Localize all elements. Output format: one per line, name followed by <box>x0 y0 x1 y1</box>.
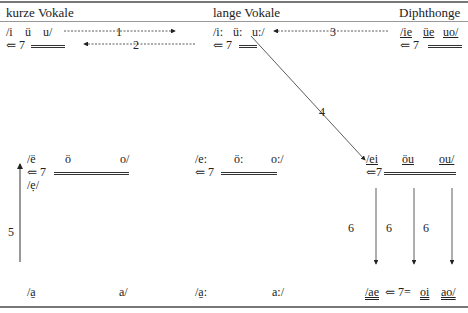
arrows-layer <box>0 0 468 313</box>
arrow-4 <box>251 36 365 160</box>
